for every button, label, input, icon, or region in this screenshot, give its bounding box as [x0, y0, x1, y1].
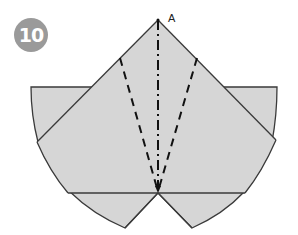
point-label-a: A: [168, 12, 176, 24]
origami-fold-diagram: A: [0, 0, 298, 235]
apex-point-a: [157, 19, 160, 22]
